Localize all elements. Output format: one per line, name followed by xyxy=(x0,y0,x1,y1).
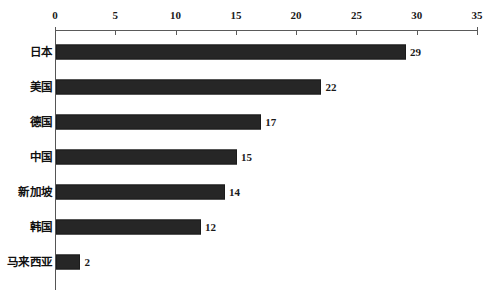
x-axis-tick-label-15: 15 xyxy=(230,9,241,21)
bar-value-2: 17 xyxy=(265,116,276,128)
x-axis-tick-label-5: 5 xyxy=(113,9,119,21)
x-axis-tick-label-30: 30 xyxy=(411,9,422,21)
bar-row: 日本 29 xyxy=(0,35,495,69)
bar-value-4: 14 xyxy=(229,186,240,198)
category-label-5: 韩国 xyxy=(30,220,52,234)
bar-5 xyxy=(56,220,201,235)
bar-6 xyxy=(56,255,80,270)
bar-value-1: 22 xyxy=(326,81,337,93)
x-axis-tick-label-25: 25 xyxy=(351,9,362,21)
category-label-4: 新加坡 xyxy=(18,185,52,199)
bar-2 xyxy=(56,115,261,130)
bar-3 xyxy=(56,150,237,165)
bar-row: 新加坡 14 xyxy=(0,175,495,209)
bar-row: 韩国 12 xyxy=(0,210,495,244)
bar-value-6: 2 xyxy=(85,256,91,268)
category-label-1: 美国 xyxy=(30,80,52,94)
bar-4 xyxy=(56,185,225,200)
category-label-2: 德国 xyxy=(30,115,52,129)
x-axis-tick-label-0: 0 xyxy=(52,9,58,21)
bar-row: 中国 15 xyxy=(0,140,495,174)
bar-1 xyxy=(56,80,321,95)
bar-value-0: 29 xyxy=(410,46,421,58)
bar-0 xyxy=(56,45,406,60)
x-axis: 0 5 10 15 20 25 30 35 xyxy=(0,0,495,34)
bar-value-3: 15 xyxy=(241,151,252,163)
x-axis-tick-label-35: 35 xyxy=(472,9,483,21)
x-axis-tick-label-20: 20 xyxy=(291,9,302,21)
x-axis-tick-label-10: 10 xyxy=(170,9,181,21)
bar-chart: 0 5 10 15 20 25 30 35 日本 29 美国 22 德国 xyxy=(0,0,495,295)
category-label-6: 马来西亚 xyxy=(7,255,52,269)
category-label-3: 中国 xyxy=(30,150,52,164)
bar-row: 马来西亚 2 xyxy=(0,245,495,279)
bar-row: 德国 17 xyxy=(0,105,495,139)
bar-value-5: 12 xyxy=(205,221,216,233)
category-label-0: 日本 xyxy=(30,45,52,59)
bar-row: 美国 22 xyxy=(0,70,495,104)
bar-series: 日本 29 美国 22 德国 17 中国 15 新加坡 14 韩国 12 xyxy=(0,31,495,295)
